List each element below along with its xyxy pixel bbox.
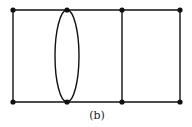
node-b3 [119,99,124,104]
node-b1 [10,99,15,104]
double-edge-ellipse [55,10,79,102]
figure-caption: (b) [89,109,105,122]
node-t2 [64,7,69,12]
node-t1 [10,7,15,12]
node-b2 [64,99,69,104]
graph-diagram: (b) [0,0,192,127]
node-b4 [177,99,182,104]
node-t4 [177,7,182,12]
node-t3 [119,7,124,12]
